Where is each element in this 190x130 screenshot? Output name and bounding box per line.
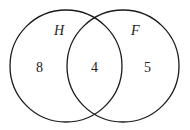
venn-diagram: H F 8 4 5 — [0, 0, 190, 130]
f-only-count: 5 — [144, 60, 151, 75]
set-h-circle — [10, 10, 122, 122]
h-only-count: 8 — [36, 60, 43, 75]
set-h-label: H — [53, 23, 65, 38]
set-f-label: F — [130, 23, 140, 38]
intersection-count: 4 — [91, 60, 98, 75]
set-f-circle — [67, 10, 179, 122]
